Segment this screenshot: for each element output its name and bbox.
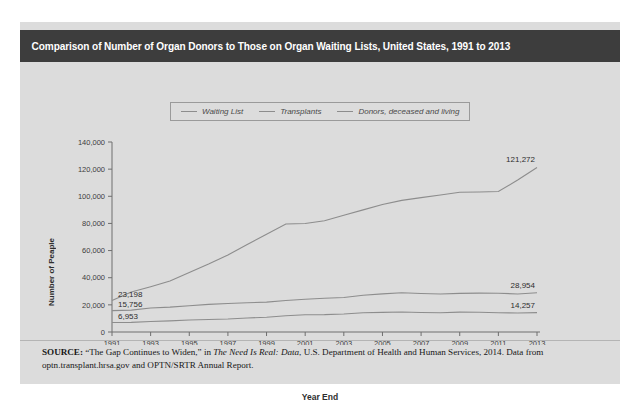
source-title-italic: The Need Is Real: Data — [213, 347, 299, 357]
figure-title-bar: Comparison of Number of Organ Donors to … — [20, 30, 620, 62]
data-label-end-2: 14,257 — [511, 301, 536, 310]
data-label-start-1: 15,756 — [118, 300, 143, 309]
y-tick-label: 40,000 — [82, 273, 105, 282]
y-tick-label: 100,000 — [78, 192, 105, 201]
x-axis-title: Year End — [20, 392, 620, 402]
source-note: SOURCE: “The Gap Continues to Widen,” in… — [42, 346, 602, 371]
y-tick-label: 140,000 — [78, 138, 105, 147]
chart-area: Waiting List Transplants Donors, decease… — [20, 62, 620, 345]
source-prefix: SOURCE: — [42, 347, 83, 357]
series-line-0 — [112, 167, 537, 300]
y-axis-title: Number of Peaple — [44, 212, 58, 332]
y-tick-label: 20,000 — [82, 301, 105, 310]
y-tick-label: 80,000 — [82, 219, 105, 228]
data-label-start-0: 23,198 — [118, 290, 143, 299]
data-label-end-0: 121,272 — [506, 155, 535, 164]
x-axis-ticks: 1991199319951997199920012003200520072009… — [104, 332, 546, 345]
y-tick-label: 120,000 — [78, 165, 105, 174]
plot-svg: 020,00040,00060,00080,000100,000120,0001… — [20, 62, 620, 345]
source-divider — [20, 340, 620, 341]
series-line-2 — [112, 312, 537, 323]
page-title: Comparison of Number of Organ Donors to … — [20, 40, 510, 52]
series-line-1 — [112, 293, 537, 311]
figure-panel: Comparison of Number of Organ Donors to … — [20, 22, 620, 384]
series-lines — [112, 167, 537, 322]
y-tick-label: 0 — [101, 328, 105, 337]
y-tick-label: 60,000 — [82, 246, 105, 255]
y-axis-ticks: 020,00040,00060,00080,000100,000120,0001… — [78, 138, 112, 337]
source-text-part1: “The Gap Continues to Widen,” in — [83, 347, 213, 357]
data-point-labels: 23,198121,27215,75628,9546,95314,257 — [118, 155, 536, 321]
data-label-end-1: 28,954 — [511, 281, 536, 290]
data-label-start-2: 6,953 — [118, 312, 139, 321]
